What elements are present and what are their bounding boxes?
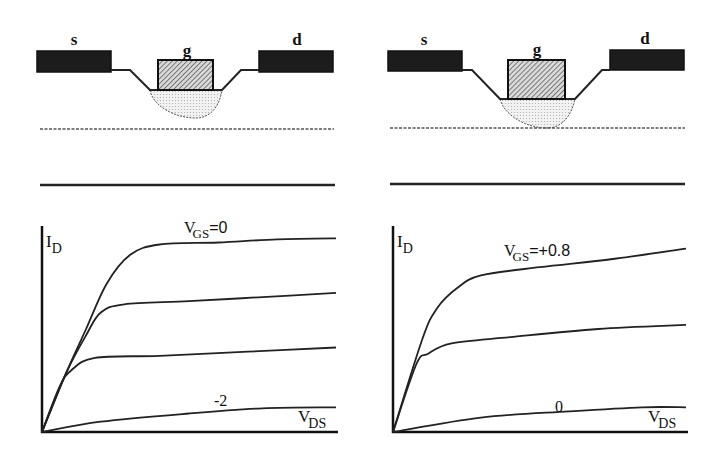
gate-label: g bbox=[183, 41, 192, 60]
curve-group bbox=[42, 238, 336, 432]
vgs-bottom-label: 0 bbox=[555, 398, 563, 415]
drain-label: d bbox=[292, 30, 302, 49]
source-label: s bbox=[71, 30, 78, 49]
y-axis-label: ID bbox=[46, 232, 62, 256]
gate-electrode bbox=[508, 60, 565, 99]
device-cross-section-left: s g d bbox=[37, 30, 335, 185]
gate-label: g bbox=[533, 40, 542, 59]
source-label: s bbox=[421, 30, 428, 49]
vgs-top-label: VGS=+0.8 bbox=[504, 242, 570, 264]
id-vds-chart-right: ID VDS VGS=+0.8 0 bbox=[393, 226, 688, 432]
source-contact bbox=[37, 51, 111, 72]
vgs-bottom-label: -2 bbox=[214, 392, 227, 409]
device-cross-section-right: s g d bbox=[388, 29, 685, 184]
depletion-region bbox=[500, 99, 575, 128]
drain-label: d bbox=[640, 29, 650, 48]
depletion-region bbox=[150, 90, 222, 118]
x-axis-label: VDS bbox=[298, 407, 326, 431]
curve-group bbox=[393, 249, 686, 432]
source-contact bbox=[388, 51, 462, 71]
iv-curve-2 bbox=[42, 293, 336, 432]
gate-electrode bbox=[158, 60, 213, 90]
iv-curve-1 bbox=[393, 249, 686, 432]
figure-canvas: s g d s g d ID VDS VGS=0 -2 ID VDS VGS=+… bbox=[0, 0, 723, 464]
x-axis-label: VDS bbox=[648, 407, 676, 431]
drain-contact bbox=[259, 51, 333, 72]
iv-curve-4 bbox=[42, 407, 336, 432]
drain-contact bbox=[610, 50, 684, 70]
iv-curve-2 bbox=[393, 325, 686, 432]
iv-curve-3 bbox=[42, 348, 336, 433]
vgs-top-label: VGS=0 bbox=[184, 219, 228, 241]
iv-curve-3 bbox=[393, 407, 686, 432]
id-vds-chart-left: ID VDS VGS=0 -2 bbox=[42, 219, 338, 432]
y-axis-label: ID bbox=[397, 232, 413, 256]
